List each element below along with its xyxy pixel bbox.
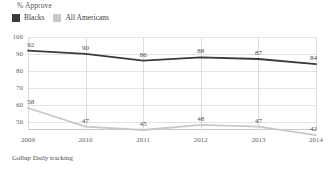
y-axis-tick-label: 90 [16, 50, 23, 58]
series-line-all-americans [28, 108, 316, 135]
x-axis-labels: 200920102011201220132014 [28, 136, 316, 148]
data-point-label: 47 [255, 117, 262, 125]
x-axis-tick-label: 2012 [194, 136, 208, 144]
x-axis-tick-label: 2009 [21, 136, 35, 144]
chart-legend: Blacks All Americans [12, 13, 109, 22]
data-point-label: 88 [197, 47, 204, 55]
x-axis-tick-label: 2011 [136, 136, 150, 144]
legend-item-blacks: Blacks [12, 13, 44, 22]
data-point-label: 84 [310, 54, 317, 62]
data-point-label: 92 [27, 41, 34, 49]
data-point-label: 87 [255, 49, 262, 57]
y-axis-tick-label: 100 [13, 33, 24, 41]
y-axis-tick-label: 80 [16, 67, 23, 75]
legend-swatch-all-americans [53, 14, 61, 22]
series-line-blacks [28, 51, 316, 65]
chart-axis-title: % Approve [17, 1, 52, 10]
x-axis-tick-label: 2013 [251, 136, 265, 144]
x-axis-tick-label: 2010 [79, 136, 93, 144]
plot-area: 929086888784584745484742 [28, 37, 316, 130]
data-point-label: 86 [140, 51, 147, 59]
data-point-label: 48 [197, 115, 204, 123]
chart-container: % Approve Blacks All Americans 506070809… [0, 0, 328, 172]
gridline-vertical [316, 37, 317, 130]
legend-label-all-americans: All Americans [65, 13, 109, 22]
data-point-label: 90 [82, 44, 89, 52]
y-axis-tick-label: 50 [16, 118, 23, 126]
x-axis-tick-label: 2014 [309, 136, 323, 144]
data-point-label: 45 [140, 120, 147, 128]
y-axis-tick-label: 70 [16, 84, 23, 92]
legend-swatch-blacks [12, 14, 20, 22]
source-note: Gallup Daily tracking [12, 154, 73, 162]
legend-label-blacks: Blacks [24, 13, 44, 22]
series-lines [28, 37, 316, 130]
data-point-label: 42 [310, 125, 317, 133]
y-axis-labels: 5060708090100 [0, 37, 26, 130]
y-axis-tick-label: 60 [16, 101, 23, 109]
data-point-label: 58 [27, 98, 34, 106]
data-point-label: 47 [82, 117, 89, 125]
legend-item-all-americans: All Americans [53, 13, 109, 22]
